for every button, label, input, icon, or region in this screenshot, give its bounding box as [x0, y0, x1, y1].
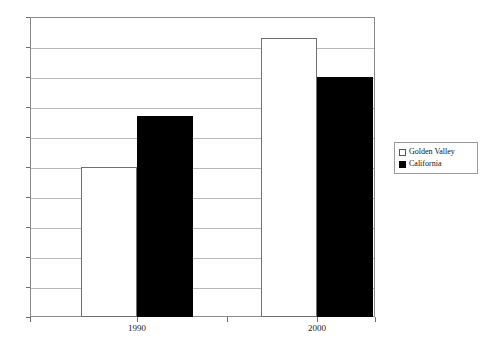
bar-1990-california — [137, 116, 193, 317]
hollow-square-swatch-icon — [399, 149, 406, 156]
x-axis-labels: 19902000 — [30, 322, 375, 338]
bar-chart: 19902000 Golden Valley California — [0, 0, 482, 348]
chart-legend: Golden Valley California — [394, 142, 478, 174]
legend-item-golden-valley[interactable]: Golden Valley — [399, 146, 474, 158]
x-axis-label-1990: 1990 — [128, 322, 146, 334]
bar-1990-golden-valley — [81, 167, 137, 317]
legend-item-california[interactable]: California — [399, 158, 474, 170]
bar-2000-california — [317, 77, 373, 317]
bars-layer — [30, 17, 375, 317]
x-axis-tick — [375, 317, 376, 322]
filled-square-swatch-icon — [399, 161, 406, 168]
legend-item-label: Golden Valley — [409, 147, 455, 157]
x-axis-label-2000: 2000 — [308, 322, 326, 334]
bar-2000-golden-valley — [261, 38, 317, 317]
y-axis — [0, 17, 30, 317]
legend-item-label: California — [409, 159, 441, 169]
